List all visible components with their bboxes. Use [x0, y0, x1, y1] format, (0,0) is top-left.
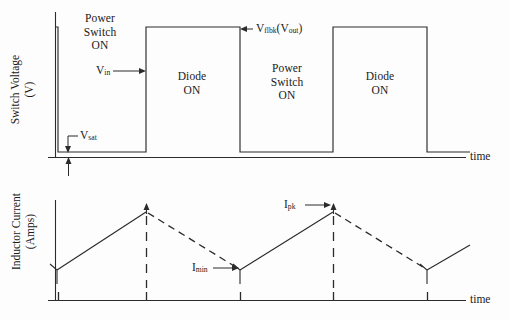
- v-sat-label: Vsat: [80, 129, 97, 143]
- current-y-axis-title-line1: Inductor Current: [10, 193, 22, 270]
- state-line: Diode: [366, 70, 395, 82]
- voltage-y-axis-title-line2: (V): [23, 82, 35, 98]
- voltage-y-axis-title: Switch Voltage (V): [9, 25, 36, 155]
- i-min-label: Imin: [192, 261, 208, 275]
- i-pk-subscript: pk: [288, 202, 296, 211]
- current-axis-ticks: [59, 292, 428, 301]
- state-line: ON: [279, 89, 296, 101]
- state-line: Diode: [178, 70, 207, 82]
- i-pk-arrow: [305, 202, 331, 208]
- v-in-label: Vin: [96, 64, 110, 78]
- state-label-diode-on-2: Diode ON: [340, 70, 420, 97]
- state-label-power-switch-on-1: Power Switch ON: [60, 12, 140, 53]
- current-y-axis-title: Inductor Current (Amps): [10, 164, 37, 300]
- waveform-figure: Switch Voltage (V) Power Switch ON Diode…: [0, 0, 509, 320]
- i-pk-label: Ipk: [284, 198, 295, 212]
- state-line: Switch: [271, 76, 304, 88]
- v-in-subscript: in: [104, 68, 110, 77]
- state-line: ON: [184, 84, 201, 96]
- state-line: Power: [85, 12, 115, 24]
- v-out-open: (V: [277, 22, 289, 34]
- current-panel: [48, 200, 470, 301]
- valley-marks: [50, 264, 427, 284]
- current-rising-ramps: [57, 212, 470, 270]
- v-flbk-label: Vflbk(Vout): [256, 22, 302, 36]
- state-line: ON: [372, 84, 389, 96]
- current-time-label: time: [470, 293, 490, 307]
- v-out-close: ): [298, 22, 302, 34]
- v-sat-subscript: sat: [88, 133, 96, 142]
- voltage-time-label: time: [470, 150, 490, 164]
- state-label-power-switch-on-2: Power Switch ON: [247, 62, 327, 103]
- v-out-subscript: out: [289, 26, 299, 35]
- state-label-diode-on-1: Diode ON: [152, 70, 232, 97]
- v-flbk-subscript: flbk: [264, 26, 276, 35]
- v-sat-leader: [65, 136, 78, 176]
- state-line: Switch: [84, 26, 117, 38]
- state-line: Power: [272, 62, 302, 74]
- state-line: ON: [92, 39, 109, 51]
- i-min-subscript: min: [196, 265, 208, 274]
- v-in-arrow: [113, 68, 146, 74]
- v-flbk-arrow: [240, 26, 253, 32]
- voltage-y-axis-title-line1: Switch Voltage: [9, 55, 21, 125]
- current-y-axis-title-line2: (Amps): [24, 214, 36, 249]
